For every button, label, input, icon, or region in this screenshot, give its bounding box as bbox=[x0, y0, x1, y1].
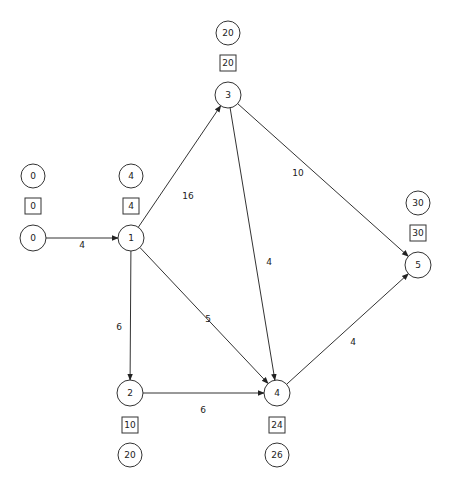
late-time-value: 20 bbox=[222, 28, 234, 38]
edge-1-4 bbox=[140, 247, 268, 383]
node-label: 5 bbox=[415, 260, 421, 270]
node-5: 53030 bbox=[405, 191, 431, 278]
early-time-value: 24 bbox=[271, 420, 283, 430]
early-time-value: 0 bbox=[30, 201, 36, 211]
early-time-value: 10 bbox=[124, 420, 136, 430]
edge-weight-label: 6 bbox=[200, 405, 206, 415]
edge-3-5 bbox=[238, 104, 409, 257]
node-label: 2 bbox=[127, 388, 133, 398]
node-3: 32020 bbox=[215, 21, 241, 108]
early-time-value: 30 bbox=[412, 228, 424, 238]
edge-weight-label: 4 bbox=[266, 257, 272, 267]
late-time-value: 26 bbox=[271, 450, 283, 460]
edge-weight-label: 5 bbox=[205, 314, 211, 324]
node-2: 21020 bbox=[117, 380, 143, 467]
edge-weight-label: 4 bbox=[79, 240, 85, 250]
node-4: 42426 bbox=[264, 380, 290, 467]
node-0: 000 bbox=[20, 164, 46, 251]
node-label: 0 bbox=[30, 233, 36, 243]
late-time-value: 0 bbox=[30, 171, 36, 181]
network-diagram: 4166541064 00014421020320204242653030 bbox=[0, 0, 455, 485]
edge-4-5 bbox=[287, 274, 409, 385]
late-time-value: 20 bbox=[124, 450, 136, 460]
edge-3-4 bbox=[230, 108, 275, 380]
edge-1-2 bbox=[130, 251, 131, 380]
late-time-value: 30 bbox=[412, 198, 424, 208]
edge-1-3 bbox=[138, 106, 220, 227]
edge-weight-label: 4 bbox=[350, 337, 356, 347]
edges-layer: 4166541064 bbox=[46, 104, 408, 415]
late-time-value: 4 bbox=[128, 171, 134, 181]
node-label: 3 bbox=[225, 90, 231, 100]
early-time-value: 4 bbox=[128, 201, 134, 211]
node-label: 1 bbox=[128, 233, 134, 243]
early-time-value: 20 bbox=[222, 58, 234, 68]
edge-weight-label: 10 bbox=[292, 168, 304, 178]
node-label: 4 bbox=[274, 388, 280, 398]
edge-weight-label: 6 bbox=[116, 322, 122, 332]
node-1: 144 bbox=[118, 164, 144, 251]
edge-weight-label: 16 bbox=[182, 191, 194, 201]
